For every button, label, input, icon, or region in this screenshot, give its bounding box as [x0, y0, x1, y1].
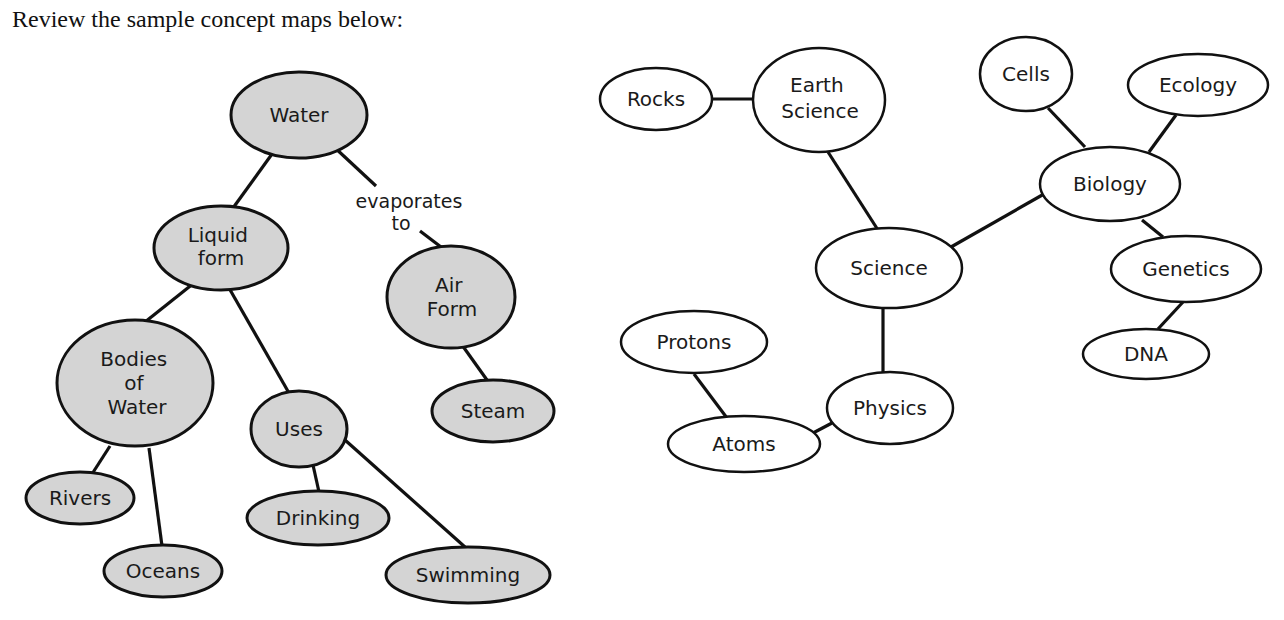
edge-protons-atoms: [694, 374, 727, 418]
svg-text:Swimming: Swimming: [416, 563, 521, 587]
science-concept-map: Rocks Earth Science Cells Ecology Biolog…: [600, 37, 1268, 472]
svg-text:Protons: Protons: [657, 330, 732, 354]
node-cells: Cells: [980, 37, 1072, 111]
node-physics: Physics: [827, 372, 953, 444]
edge-liquid-bodies: [145, 283, 194, 322]
edge-water-evaporates: [333, 146, 376, 186]
svg-text:Oceans: Oceans: [126, 559, 200, 583]
node-oceans: Oceans: [104, 545, 222, 597]
svg-text:Water: Water: [269, 103, 329, 127]
node-bodies-of-water: Bodies of Water: [57, 320, 213, 446]
svg-text:DNA: DNA: [1124, 342, 1168, 366]
edge-liquid-uses: [229, 288, 289, 393]
svg-text:Genetics: Genetics: [1142, 257, 1230, 281]
edge-genetics-dna: [1158, 302, 1183, 329]
node-atoms: Atoms: [668, 416, 820, 472]
svg-text:Drinking: Drinking: [276, 506, 360, 530]
edge-label-evaporates-to: evaporates to: [356, 190, 469, 234]
concept-maps-canvas: evaporates to Water Liquid form Air Form: [0, 0, 1284, 620]
svg-text:Uses: Uses: [275, 417, 323, 441]
node-genetics: Genetics: [1111, 236, 1261, 302]
svg-text:Physics: Physics: [853, 396, 927, 420]
node-earth-science: Earth Science: [753, 48, 885, 152]
node-uses: Uses: [251, 391, 347, 467]
svg-text:Biology: Biology: [1073, 172, 1147, 196]
water-concept-map: evaporates to Water Liquid form Air Form: [26, 72, 554, 603]
svg-text:Cells: Cells: [1002, 62, 1050, 86]
svg-text:Steam: Steam: [461, 399, 526, 423]
edge-biology-ecology: [1149, 115, 1176, 152]
svg-text:Ecology: Ecology: [1159, 73, 1237, 97]
node-air-form: Air Form: [387, 246, 515, 348]
node-liquid-form: Liquid form: [154, 206, 288, 290]
edge-water-liquid: [233, 154, 272, 208]
node-biology: Biology: [1040, 147, 1180, 221]
svg-text:Rivers: Rivers: [49, 486, 111, 510]
edge-bodies-rivers: [92, 446, 110, 474]
edge-science-biology: [951, 194, 1044, 247]
node-protons: Protons: [621, 311, 767, 373]
edge-uses-drinking: [313, 465, 319, 492]
edge-earth-science: [828, 152, 878, 230]
svg-text:Rocks: Rocks: [627, 87, 685, 111]
node-ecology: Ecology: [1128, 54, 1268, 116]
node-rivers: Rivers: [26, 472, 134, 524]
node-water: Water: [231, 72, 367, 158]
svg-text:Science: Science: [850, 256, 928, 280]
edge-physics-atoms: [813, 423, 832, 433]
node-drinking: Drinking: [247, 491, 389, 545]
edge-biology-genetics: [1142, 220, 1163, 237]
edge-air-steam: [462, 345, 487, 380]
node-swimming: Swimming: [386, 547, 550, 603]
edge-bodies-oceans: [149, 448, 162, 546]
edge-biology-cells: [1048, 108, 1085, 147]
node-rocks: Rocks: [600, 68, 712, 130]
edge-evaporates-air: [420, 231, 441, 247]
node-steam: Steam: [432, 380, 554, 442]
svg-text:Atoms: Atoms: [712, 432, 775, 456]
node-dna: DNA: [1083, 329, 1209, 379]
node-science: Science: [816, 228, 962, 308]
